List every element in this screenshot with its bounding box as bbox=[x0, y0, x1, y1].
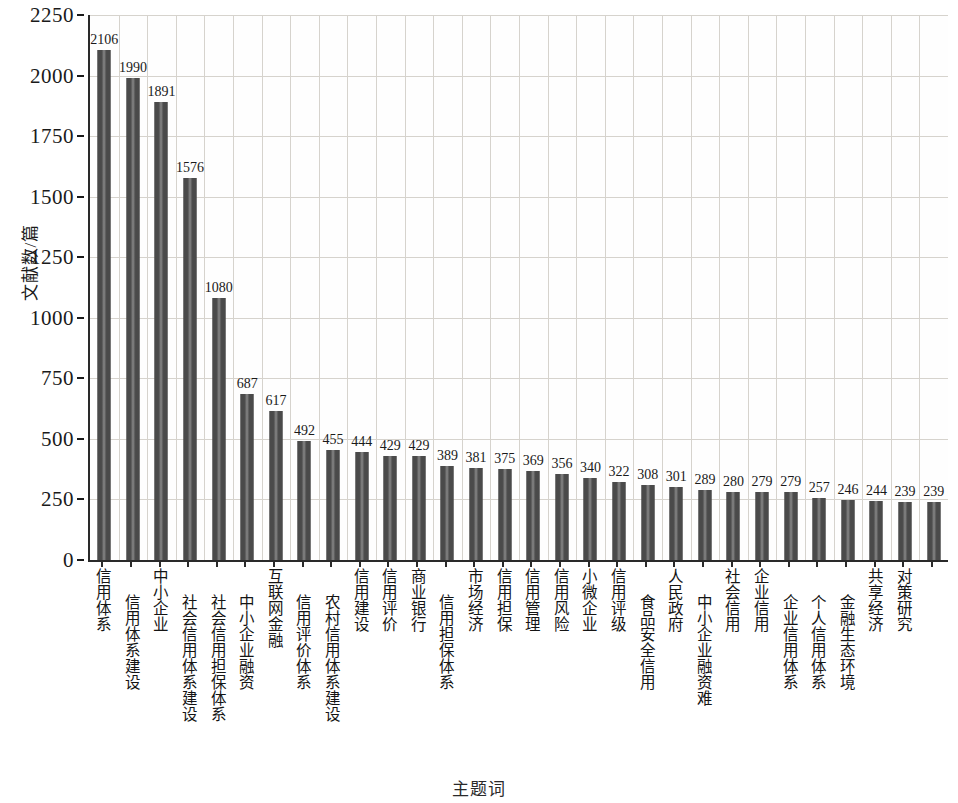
x-axis-tick-mark bbox=[530, 562, 532, 567]
x-axis-category-label: 中小企业融资难 bbox=[695, 594, 711, 706]
bar-value-label: 2106 bbox=[90, 33, 118, 47]
y-axis-tick-mark bbox=[77, 559, 84, 561]
bar-slot: 375 bbox=[490, 15, 519, 560]
x-axis-tick-mark bbox=[387, 562, 389, 567]
bar[interactable] bbox=[899, 502, 912, 560]
bar-value-label: 239 bbox=[923, 485, 944, 499]
bar-value-label: 280 bbox=[723, 475, 744, 489]
x-axis-tick-mark bbox=[874, 562, 876, 567]
bar[interactable] bbox=[727, 492, 740, 560]
bar[interactable] bbox=[527, 471, 540, 560]
bar[interactable] bbox=[613, 482, 626, 560]
bar-value-label: 301 bbox=[666, 470, 687, 484]
plot-area: 2106199018911576108068761749245544442942… bbox=[88, 15, 948, 562]
x-axis-category-label: 信用体系 bbox=[94, 568, 110, 632]
bar-value-label: 1891 bbox=[147, 85, 175, 99]
y-axis-tick-mark bbox=[77, 196, 84, 198]
x-axis-category-label: 企业信用体系 bbox=[781, 594, 797, 690]
x-axis-tick-mark bbox=[559, 562, 561, 567]
x-axis-category-label: 信用评级 bbox=[609, 568, 625, 632]
bar[interactable] bbox=[184, 178, 197, 560]
bar[interactable] bbox=[670, 487, 683, 560]
bar-value-label: 687 bbox=[237, 377, 258, 391]
bar[interactable] bbox=[927, 502, 940, 560]
bar[interactable] bbox=[641, 485, 654, 560]
bar[interactable] bbox=[412, 456, 425, 560]
bar-slot: 429 bbox=[376, 15, 405, 560]
bar-slot: 301 bbox=[662, 15, 691, 560]
x-axis-tick-mark bbox=[645, 562, 647, 567]
y-axis-tick-mark bbox=[77, 256, 84, 258]
x-axis-category-label: 社会信用 bbox=[724, 568, 740, 632]
bar-value-label: 444 bbox=[351, 435, 372, 449]
bar[interactable] bbox=[384, 456, 397, 560]
x-axis-tick-mark bbox=[731, 562, 733, 567]
y-axis-tick-mark bbox=[77, 75, 84, 77]
bar[interactable] bbox=[212, 298, 225, 560]
bar-slot: 289 bbox=[691, 15, 720, 560]
bar-value-label: 356 bbox=[551, 457, 572, 471]
bar-slot: 617 bbox=[262, 15, 291, 560]
bar[interactable] bbox=[784, 492, 797, 560]
bar[interactable] bbox=[756, 492, 769, 560]
bar[interactable] bbox=[841, 500, 854, 560]
y-axis-tick-label: 2250 bbox=[30, 3, 74, 28]
x-axis-category-label: 信用管理 bbox=[523, 568, 539, 632]
bar[interactable] bbox=[241, 394, 254, 560]
bar[interactable] bbox=[298, 441, 311, 560]
bar[interactable] bbox=[584, 478, 597, 560]
y-axis-tick-label: 1000 bbox=[30, 305, 74, 330]
bar[interactable] bbox=[269, 411, 282, 560]
bar-slot: 246 bbox=[834, 15, 863, 560]
bar-value-label: 244 bbox=[866, 484, 887, 498]
x-axis-category-label: 中小企业 bbox=[152, 568, 168, 632]
x-axis-tick-mark bbox=[159, 562, 161, 567]
bar-slot: 369 bbox=[519, 15, 548, 560]
bar[interactable] bbox=[870, 501, 883, 560]
x-axis-category-label: 金融生态环境 bbox=[838, 594, 854, 690]
bar-slot: 1891 bbox=[147, 15, 176, 560]
x-axis-tick-mark bbox=[902, 562, 904, 567]
x-axis-tick-mark bbox=[216, 562, 218, 567]
bar[interactable] bbox=[441, 466, 454, 560]
bar[interactable] bbox=[126, 78, 139, 560]
y-axis-tick-label: 1750 bbox=[30, 124, 74, 149]
y-axis-tick-label: 1500 bbox=[30, 184, 74, 209]
bar[interactable] bbox=[470, 468, 483, 560]
bar[interactable] bbox=[98, 50, 111, 560]
x-axis-tick-mark bbox=[816, 562, 818, 567]
bar[interactable] bbox=[155, 102, 168, 560]
x-axis-tick-mark bbox=[130, 562, 132, 567]
x-axis-category-label: 信用担保 bbox=[495, 568, 511, 632]
x-axis-tick-mark bbox=[673, 562, 675, 567]
x-axis-category-label: 信用担保体系 bbox=[438, 594, 454, 690]
x-axis-category-label: 共享经济 bbox=[867, 568, 883, 632]
bar[interactable] bbox=[498, 469, 511, 560]
x-axis-tick-mark bbox=[359, 562, 361, 567]
x-axis-category-label: 对策研究 bbox=[895, 568, 911, 632]
bar-value-label: 381 bbox=[466, 451, 487, 465]
bar-value-label: 257 bbox=[809, 481, 830, 495]
x-axis-category-label: 信用建设 bbox=[352, 568, 368, 632]
x-axis-tick-mark bbox=[302, 562, 304, 567]
y-axis-tick-mark bbox=[77, 498, 84, 500]
bar-value-label: 322 bbox=[609, 465, 630, 479]
bar-slot: 1990 bbox=[119, 15, 148, 560]
bar-slot: 239 bbox=[919, 15, 948, 560]
x-axis-tick-mark bbox=[473, 562, 475, 567]
bar-value-label: 389 bbox=[437, 449, 458, 463]
x-axis-category-label: 信用评价体系 bbox=[295, 594, 311, 690]
x-axis-category-label: 互联网金融 bbox=[266, 568, 282, 648]
x-axis-tick-mark bbox=[931, 562, 933, 567]
bar-slot: 492 bbox=[290, 15, 319, 560]
bar[interactable] bbox=[555, 474, 568, 560]
bar[interactable] bbox=[355, 452, 368, 560]
bar-slot: 1080 bbox=[204, 15, 233, 560]
bar-slot: 257 bbox=[805, 15, 834, 560]
bar-value-label: 1990 bbox=[119, 61, 147, 75]
bar[interactable] bbox=[813, 498, 826, 560]
y-axis-tick-mark bbox=[77, 438, 84, 440]
bar[interactable] bbox=[327, 450, 340, 560]
bar-slot: 340 bbox=[576, 15, 605, 560]
bar[interactable] bbox=[698, 490, 711, 560]
